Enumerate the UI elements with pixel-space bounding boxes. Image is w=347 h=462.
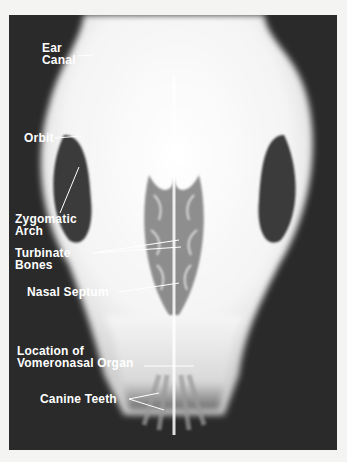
label-vomeronasal-organ: Location of Vomeronasal Organ: [17, 345, 134, 369]
label-nasal-septum: Nasal Septum: [27, 286, 109, 298]
label-ear-canal: Ear Canal: [42, 42, 76, 66]
label-line: Bones: [15, 259, 71, 271]
label-line: Canal: [42, 54, 76, 66]
label-line: Nasal Septum: [27, 286, 109, 298]
label-line: Orbit: [24, 132, 54, 144]
label-zygomatic-arch: Zygomatic Arch: [15, 213, 77, 237]
label-turbinate-bones: Turbinate Bones: [15, 247, 71, 271]
label-line: Arch: [15, 225, 77, 237]
label-line: Vomeronasal Organ: [17, 357, 134, 369]
label-line: Canine Teeth: [40, 393, 117, 405]
xray-figure: Ear Canal Orbit Zygomatic Arch Turbinate…: [9, 15, 337, 450]
label-canine-teeth: Canine Teeth: [40, 393, 117, 405]
label-orbit: Orbit: [24, 132, 54, 144]
